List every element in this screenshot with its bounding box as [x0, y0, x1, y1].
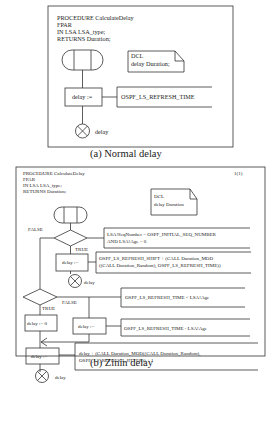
decision-2-false-label: FALSE	[62, 300, 77, 305]
header-line: FPAR	[23, 177, 36, 182]
caption-b: (b) Zinin delay	[90, 357, 153, 368]
diagram-a-text: PROCEDURE CalculateDelay FPAR IN LSA LSA…	[57, 14, 195, 135]
task-comment: OSPF_LS_REFRESH_TIME	[121, 93, 195, 100]
return-2-label: delay	[55, 375, 66, 380]
header-line: RETURNS Duration;	[23, 189, 66, 194]
page-number: 1(1)	[234, 171, 243, 176]
return-1-label: delay	[84, 280, 95, 285]
return-icon-a	[76, 124, 90, 138]
task-1-label: delay :=	[62, 260, 78, 265]
task-false-label: delay :=	[78, 324, 94, 329]
dcl-line: delay Duration	[154, 202, 184, 207]
decision-1	[54, 230, 87, 246]
task-1-comment: OSPF_LS_REFRESH_SHIFT + (CALL Duration_M…	[99, 256, 213, 261]
dcl-line: delay Duration;	[131, 60, 170, 67]
decision-1-comment: AND LSA!Age = 0	[107, 239, 147, 244]
decision-1-true-label: TRUE	[75, 247, 88, 252]
dcl-line: DCL	[131, 52, 144, 59]
diagram-b-text: PROCEDURE CalculateDelay FPAR IN LSA LSA…	[23, 171, 243, 380]
decision-1-comment: LSA!SeqNumber = OSPF_INITIAL_SEQ_NUMBER	[107, 232, 217, 237]
comment-bracket-d1	[104, 228, 250, 248]
start-symbol-a	[62, 50, 103, 70]
header-line: PROCEDURE CalculateDelay	[23, 171, 85, 176]
decision-2-true-label: TRUE	[42, 306, 55, 311]
header-line: RETURNS Duration;	[57, 35, 111, 42]
caption-a: (a) Normal delay	[90, 148, 162, 159]
header-line: PROCEDURE CalculateDelay	[57, 14, 134, 21]
decision-2	[23, 289, 57, 305]
start-symbol-b	[54, 207, 87, 223]
header-line: IN LSA LSA_type;	[23, 183, 62, 188]
return-icon-b2	[36, 370, 49, 383]
task-1-comment: ((CALL Duration_Random), OSPF_LS_REFRESH…	[99, 263, 221, 269]
header-line: FPAR	[57, 21, 73, 28]
dcl-line: DCL	[154, 194, 164, 199]
task-label: delay :=	[72, 93, 93, 100]
task-final-label: delay :=	[31, 354, 47, 359]
task-true-label: delay := 0	[27, 321, 48, 326]
return-label: delay	[95, 128, 109, 135]
task-false-comment: OSPF_LS_REFRESH_TIME - LSA!Age	[124, 326, 208, 331]
header-line: IN LSA LSA_type;	[57, 28, 105, 35]
return-icon-b1	[69, 275, 82, 288]
decision-2-comment: OSPF_LS_REFRESH_TIME < LSA!Age	[125, 295, 210, 300]
decision-1-false-label: FALSE	[28, 227, 43, 232]
